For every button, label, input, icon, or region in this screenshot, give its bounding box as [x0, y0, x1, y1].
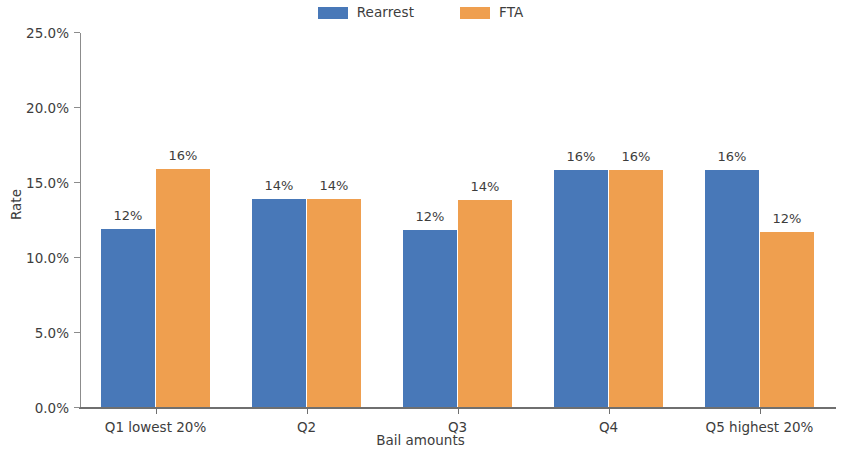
bar-chart-figure: Rearrest FTA Rate Bail amounts 0.0%5.0%1… — [0, 0, 841, 455]
x-axis-tick — [760, 408, 761, 414]
x-axis-tick — [458, 408, 459, 414]
bar-rearrest[interactable]: 12% — [101, 229, 155, 408]
bar-value-label: 16% — [567, 149, 596, 164]
y-axis-tick: 20.0% — [74, 107, 80, 108]
legend-entry-fta: FTA — [460, 6, 523, 20]
y-axis-tick: 25.0% — [74, 32, 80, 33]
x-axis-tick — [307, 408, 308, 414]
bar-group: 16%16% — [554, 33, 663, 407]
bar-rearrest[interactable]: 16% — [554, 170, 608, 407]
bar-rearrest[interactable]: 12% — [403, 230, 457, 407]
x-axis-category-label: Q1 lowest 20% — [105, 419, 207, 435]
y-axis-line — [80, 33, 81, 408]
y-axis-tick: 5.0% — [74, 332, 80, 333]
legend-label-fta: FTA — [499, 6, 523, 20]
bar-value-label: 14% — [471, 179, 500, 194]
bar-value-label: 12% — [114, 208, 143, 223]
y-axis-tick-label: 5.0% — [35, 325, 69, 341]
plot-area: 0.0%5.0%10.0%15.0%20.0%25.0% 12%16%14%14… — [80, 33, 835, 408]
bar-value-label: 14% — [265, 178, 294, 193]
x-axis-category-label: Q5 highest 20% — [706, 419, 814, 435]
legend-swatch-fta — [460, 7, 490, 19]
bar-group: 12%14% — [403, 33, 512, 407]
bar-fta[interactable]: 12% — [760, 232, 814, 408]
x-axis-tick — [156, 408, 157, 414]
bar-value-label: 14% — [320, 178, 349, 193]
bar-value-label: 16% — [622, 149, 651, 164]
chart-legend: Rearrest FTA — [0, 6, 841, 20]
x-axis-tick — [609, 408, 610, 414]
bar-group: 14%14% — [252, 33, 361, 407]
bar-value-label: 12% — [773, 211, 802, 226]
y-axis-tick-label: 10.0% — [26, 250, 69, 266]
x-axis-category-label: Q2 — [297, 419, 316, 435]
y-axis-tick: 10.0% — [74, 257, 80, 258]
y-axis-tick-label: 20.0% — [26, 100, 69, 116]
bar-rearrest[interactable]: 14% — [252, 199, 306, 408]
legend-label-rearrest: Rearrest — [357, 6, 414, 20]
bar-fta[interactable]: 14% — [307, 199, 361, 408]
bar-fta[interactable]: 16% — [609, 170, 663, 407]
x-axis-category-label: Q4 — [599, 419, 618, 435]
bar-fta[interactable]: 16% — [156, 169, 210, 408]
bar-fta[interactable]: 14% — [458, 200, 512, 407]
bar-value-label: 12% — [416, 209, 445, 224]
y-axis-tick-label: 15.0% — [26, 175, 69, 191]
bar-group: 16%12% — [705, 33, 814, 407]
bar-rearrest[interactable]: 16% — [705, 170, 759, 407]
y-axis-tick: 15.0% — [74, 182, 80, 183]
bar-group: 12%16% — [101, 33, 210, 407]
y-axis-tick-label: 25.0% — [26, 25, 69, 41]
y-axis-tick-label: 0.0% — [35, 400, 69, 416]
bar-value-label: 16% — [718, 149, 747, 164]
y-axis-tick: 0.0% — [74, 407, 80, 408]
x-axis-category-label: Q3 — [448, 419, 467, 435]
legend-entry-rearrest: Rearrest — [318, 6, 414, 20]
y-axis-title: Rate — [8, 189, 24, 220]
bar-value-label: 16% — [169, 148, 198, 163]
legend-swatch-rearrest — [318, 7, 348, 19]
